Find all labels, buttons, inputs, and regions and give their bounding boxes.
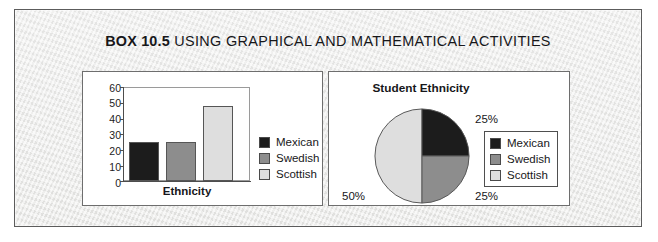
pie-chart-graphic <box>373 107 471 205</box>
legend-swatch-scottish <box>490 170 501 181</box>
bar-scottish <box>203 106 233 181</box>
legend-label-mexican: Mexican <box>276 136 319 148</box>
pie-value-label-swedish: 25% <box>475 190 498 202</box>
legend-swatch-swedish <box>259 153 270 164</box>
bar-chart-panel: 60 50 40 30 20 10 0 Ethnicity Mexican <box>82 71 323 206</box>
legend-item-swedish: Swedish <box>259 150 319 166</box>
box-title-text: USING GRAPHICAL AND MATHEMATICAL ACTIVIT… <box>174 33 550 49</box>
pie-slice-mexican <box>422 109 469 156</box>
y-tick-label-10: 10 <box>99 162 121 173</box>
legend-swatch-mexican <box>259 137 270 148</box>
pie-slice-scottish <box>375 109 422 203</box>
y-tick-label-50: 50 <box>99 98 121 109</box>
pie-value-label-scottish: 50% <box>342 190 365 202</box>
legend-item-mexican: Mexican <box>490 135 550 151</box>
pie-slice-swedish <box>422 156 469 203</box>
y-tick-label-20: 20 <box>99 146 121 157</box>
bar-chart-x-axis-line <box>123 181 251 182</box>
pie-value-label-mexican: 25% <box>475 113 498 125</box>
legend-label-mexican: Mexican <box>507 137 550 149</box>
pie-chart-svg <box>373 107 471 205</box>
legend-label-swedish: Swedish <box>507 153 550 165</box>
legend-label-scottish: Scottish <box>507 169 548 181</box>
pie-chart-legend: Mexican Swedish Scottish <box>484 131 558 187</box>
bar-chart-bars <box>124 87 250 181</box>
bar-mexican <box>129 142 159 181</box>
bar-swedish <box>166 142 196 181</box>
bar-chart-x-axis-label: Ethnicity <box>123 185 251 197</box>
y-tick-label-0: 0 <box>99 178 121 189</box>
legend-swatch-mexican <box>490 138 501 149</box>
y-tick-label-60: 60 <box>99 83 121 94</box>
legend-swatch-swedish <box>490 154 501 165</box>
legend-label-swedish: Swedish <box>276 152 319 164</box>
bar-chart-y-axis: 60 50 40 30 20 10 0 <box>91 72 121 192</box>
legend-item-mexican: Mexican <box>259 134 319 150</box>
legend-item-scottish: Scottish <box>259 166 319 182</box>
box-title: BOX 10.5 USING GRAPHICAL AND MATHEMATICA… <box>15 33 641 49</box>
box-figure-container: BOX 10.5 USING GRAPHICAL AND MATHEMATICA… <box>14 9 642 227</box>
pie-chart-title: Student Ethnicity <box>341 81 501 95</box>
legend-label-scottish: Scottish <box>276 168 317 180</box>
bar-chart-legend: Mexican Swedish Scottish <box>259 134 319 182</box>
y-tick-label-30: 30 <box>99 130 121 141</box>
pie-chart-panel: Student Ethnicity 25% 25% 50% Mexican Sw… <box>328 71 570 206</box>
y-tick-label-40: 40 <box>99 114 121 125</box>
box-title-kicker: BOX 10.5 <box>105 33 170 49</box>
legend-item-scottish: Scottish <box>490 167 550 183</box>
legend-item-swedish: Swedish <box>490 151 550 167</box>
legend-swatch-scottish <box>259 169 270 180</box>
